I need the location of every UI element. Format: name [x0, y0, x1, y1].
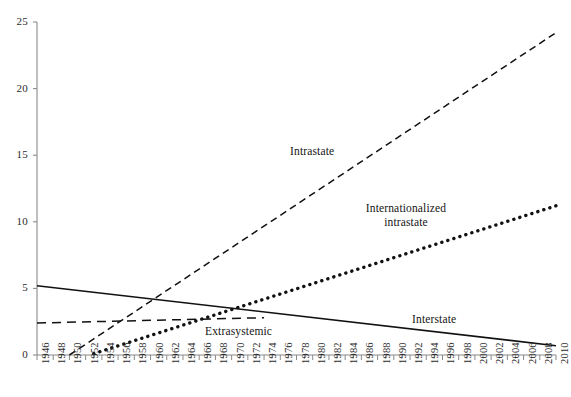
series-line-internationalized-intrastate: [94, 206, 556, 354]
series-line-extrasystemic: [37, 318, 264, 323]
series-label-extrasystemic: Extrasystemic: [205, 325, 272, 339]
series-line-interstate: [37, 286, 556, 346]
series-label-line2: intrastate: [384, 216, 428, 228]
y-tick-label: 20: [2, 83, 28, 94]
x-tick-label: 2006: [528, 342, 539, 364]
series-label-internationalized-intrastate: Internationalized intrastate: [352, 202, 460, 229]
series-label-interstate: Interstate: [412, 313, 456, 327]
x-tick-label: 1978: [301, 342, 312, 364]
x-tick-label: 1984: [349, 342, 360, 364]
x-tick-label: 1974: [268, 342, 279, 364]
x-tick-label: 1996: [446, 342, 457, 364]
x-tick-label: 1976: [284, 342, 295, 364]
x-tick-label: 2000: [479, 342, 490, 364]
x-tick-label: 1972: [252, 342, 263, 364]
x-tick-label: 1964: [187, 342, 198, 364]
series-label-intrastate: Intrastate: [290, 145, 334, 159]
x-tick-label: 1988: [382, 342, 393, 364]
x-tick-label: 1954: [106, 342, 117, 364]
x-tick-label: 1962: [171, 342, 182, 364]
x-tick-label: 1956: [122, 342, 133, 364]
x-tick-label: 1966: [203, 342, 214, 364]
y-tick-label: 25: [2, 16, 28, 27]
y-tick-marks: [33, 22, 37, 355]
x-tick-label: 1958: [138, 342, 149, 364]
x-tick-label: 1968: [219, 342, 230, 364]
x-tick-label: 2004: [511, 342, 522, 364]
x-tick-label: 1980: [317, 342, 328, 364]
y-tick-label: 15: [2, 149, 28, 160]
x-tick-label: 1960: [155, 342, 166, 364]
x-tick-label: 1982: [333, 342, 344, 364]
x-tick-label: 1970: [236, 342, 247, 364]
x-tick-label: 1992: [414, 342, 425, 364]
x-tick-label: 1986: [365, 342, 376, 364]
x-tick-label: 1948: [57, 342, 68, 364]
x-tick-label: 2008: [544, 342, 555, 364]
y-tick-label: 5: [2, 282, 28, 293]
axis-lines: [37, 22, 556, 355]
x-tick-label: 1952: [90, 342, 101, 364]
x-tick-label: 1998: [463, 342, 474, 364]
series-line-intrastate: [69, 33, 556, 355]
series-lines: [37, 33, 556, 355]
series-label-line1: Internationalized: [366, 202, 446, 214]
x-tick-label: 1946: [41, 342, 52, 364]
x-tick-label: 2002: [495, 342, 506, 364]
x-tick-label: 1994: [430, 342, 441, 364]
x-tick-label: 1950: [73, 342, 84, 364]
y-tick-label: 10: [2, 216, 28, 227]
x-tick-label: 1990: [398, 342, 409, 364]
x-tick-label: 2010: [560, 342, 571, 364]
y-tick-label: 0: [2, 349, 28, 360]
